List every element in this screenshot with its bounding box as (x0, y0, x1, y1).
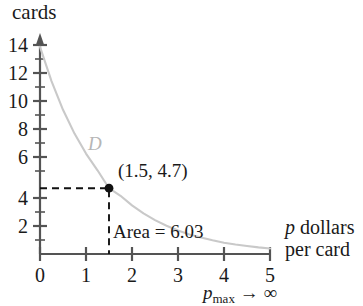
y-tick-label-10: 10 (2, 91, 28, 111)
y-tick-label-4: 4 (2, 188, 28, 208)
x-tick-label-4: 4 (214, 265, 234, 285)
y-tick-label-2: 2 (2, 216, 28, 236)
y-tick-label-8: 8 (2, 119, 28, 139)
x-tick-label-2: 2 (122, 265, 142, 285)
pmax-annotation: pmax → ∞ (203, 283, 277, 305)
y-tick-label-12: 12 (2, 63, 28, 83)
curve-label-d: D (88, 134, 102, 153)
demand-curve-path (40, 47, 270, 249)
x-tick-label-0: 0 (30, 265, 50, 285)
pmax-base: p (203, 282, 213, 303)
y-tick-label-6: 6 (2, 147, 28, 167)
y-axis-title: cards (12, 2, 56, 23)
x-tick-label-1: 1 (76, 265, 96, 285)
x-axis-title-line1-text: dollars (300, 216, 354, 238)
y-tick-label-14: 14 (2, 35, 28, 55)
area-label: Area = 6.03 (113, 222, 203, 241)
pmax-arrow-infinity: → ∞ (240, 282, 277, 303)
variable-p: p (285, 216, 295, 238)
pmax-subscript: max (213, 291, 235, 306)
x-axis-title: p dollars per card (285, 216, 354, 261)
data-point-label: (1.5, 4.7) (118, 161, 188, 180)
x-axis-title-line1: p dollars (285, 216, 354, 238)
demand-curve-figure: cards 14 12 10 8 6 4 2 0 1 2 3 4 5 D (1.… (0, 0, 363, 306)
y-axis-arrowhead (36, 33, 44, 44)
data-point-marker (105, 184, 114, 193)
x-tick-label-3: 3 (168, 265, 188, 285)
x-axis-title-line2: per card (285, 238, 354, 260)
